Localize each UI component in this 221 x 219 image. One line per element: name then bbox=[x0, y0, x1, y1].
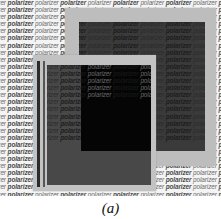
background-text-row: izer polarizer polarizer polarizer polar… bbox=[79, 27, 205, 34]
figure-caption: (a) bbox=[0, 200, 221, 217]
crossed-polarizer-overlap: izer polarizer polarizer polarizer polar… bbox=[81, 65, 151, 151]
background-text-row: izer polarizer polarizer polarizer polar… bbox=[81, 84, 151, 91]
background-text-row: izer polarizer polarizer polarizer polar… bbox=[0, 191, 221, 196]
background-text-row: izer polarizer polarizer polarizer polar… bbox=[81, 77, 151, 84]
background-text-row: izer polarizer polarizer polarizer polar… bbox=[81, 70, 151, 77]
front-polarizer-edge-stripe-inner bbox=[43, 61, 45, 187]
front-polarizer-edge-stripe bbox=[37, 61, 40, 187]
background-text-row: izer polarizer polarizer polarizer polar… bbox=[79, 34, 205, 41]
background-text-row: izer polarizer polarizer polarizer polar… bbox=[81, 91, 151, 98]
polarizer-figure: izer polarizer polarizer polarizer polar… bbox=[0, 0, 221, 196]
background-text-row: izer polarizer polarizer polarizer polar… bbox=[79, 42, 205, 49]
